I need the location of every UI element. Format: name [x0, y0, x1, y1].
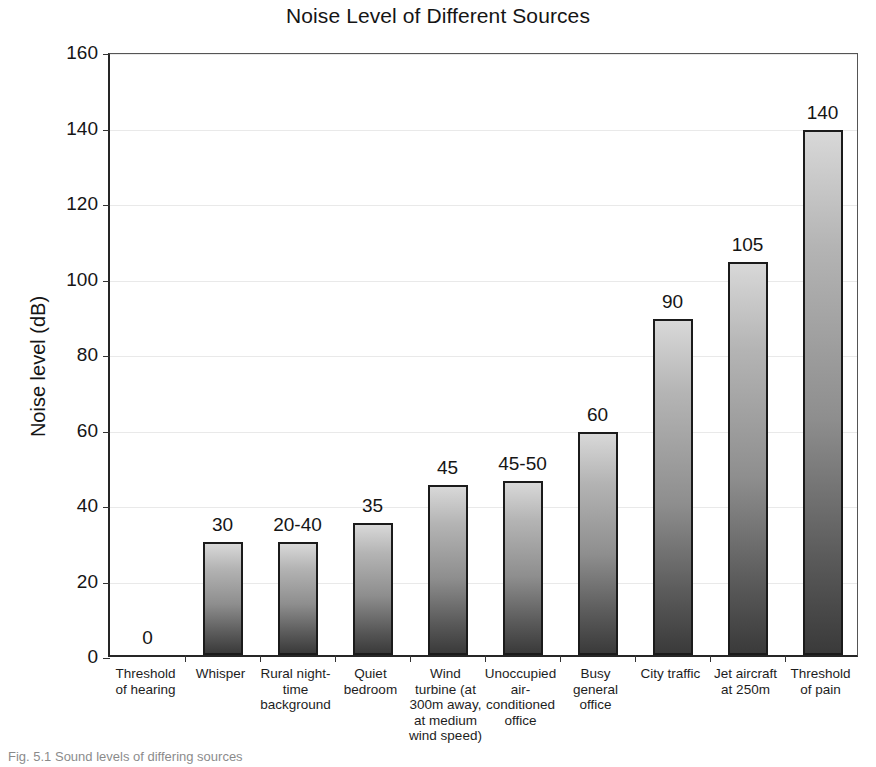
x-axis-category-line: Wind [408, 666, 483, 682]
y-tick-label: 140 [40, 118, 98, 140]
bar[interactable] [728, 262, 768, 655]
x-axis-category-label: Thresholdof pain [783, 666, 858, 697]
bar[interactable] [803, 130, 843, 655]
bar[interactable] [578, 432, 618, 655]
bar-value-label: 30 [212, 514, 233, 536]
x-axis-category-line: at medium [408, 713, 483, 729]
bar-value-label: 140 [807, 102, 839, 124]
x-axis-category-line: 300m away, [408, 697, 483, 713]
bar-value-label: 35 [362, 495, 383, 517]
bar-slot: 90 [635, 54, 710, 655]
x-axis-labels: Thresholdof hearingWhisperRural night-ti… [108, 666, 858, 761]
x-axis-category-label: Rural night-timebackground [258, 666, 333, 713]
x-axis-category-line: turbine (at [408, 682, 483, 698]
x-axis-category-label: Unoccupiedair-conditionedoffice [483, 666, 558, 728]
bar-value-label: 0 [142, 627, 153, 649]
x-axis-category-line: conditioned [483, 697, 558, 713]
bar[interactable] [353, 523, 393, 655]
x-tick-mark [560, 655, 561, 662]
x-tick-mark [335, 655, 336, 662]
bar-value-label: 20-40 [273, 514, 322, 536]
x-axis-category-line: of hearing [108, 682, 183, 698]
x-tick-mark [485, 655, 486, 662]
x-tick-mark [185, 655, 186, 662]
bar-value-label: 45-50 [498, 453, 547, 475]
y-tick-label: 40 [40, 495, 98, 517]
x-axis-category-line: at 250m [708, 682, 783, 698]
plot-area: 020406080100120140160 03020-40354545-506… [108, 53, 858, 657]
chart-figure: Noise Level of Different Sources Noise l… [0, 0, 876, 767]
x-tick-mark [410, 655, 411, 662]
bar-slot: 60 [560, 54, 635, 655]
x-axis-category-line: of pain [783, 682, 858, 698]
y-tick-label: 160 [40, 42, 98, 64]
x-axis-category-line: City traffic [633, 666, 708, 682]
y-tick-label: 0 [40, 646, 98, 668]
bar-slot: 35 [335, 54, 410, 655]
y-tick-mark [103, 658, 110, 659]
figure-caption: Fig. 5.1 Sound levels of differing sourc… [8, 749, 508, 767]
x-axis-category-line: air- [483, 682, 558, 698]
bar-value-label: 105 [732, 234, 764, 256]
bar[interactable] [653, 319, 693, 655]
x-axis-category-label: Whisper [183, 666, 258, 682]
bar-slot: 45-50 [485, 54, 560, 655]
bar-slot: 30 [185, 54, 260, 655]
y-tick-label: 100 [40, 269, 98, 291]
y-tick-label: 20 [40, 571, 98, 593]
x-axis-category-label: Windturbine (at300m away,at mediumwind s… [408, 666, 483, 744]
bar[interactable] [203, 542, 243, 655]
x-axis-category-label: Quietbedroom [333, 666, 408, 697]
x-tick-mark [710, 655, 711, 662]
x-axis-category-line: Quiet [333, 666, 408, 682]
y-tick-label: 120 [40, 193, 98, 215]
bar-value-label: 90 [662, 291, 683, 313]
x-axis-category-line: Jet aircraft [708, 666, 783, 682]
x-axis-category-line: general [558, 682, 633, 698]
y-tick-mark [103, 205, 110, 206]
bar[interactable] [278, 542, 318, 655]
x-axis-category-line: Threshold [783, 666, 858, 682]
bar-value-label: 60 [587, 404, 608, 426]
x-axis-category-label: Busygeneraloffice [558, 666, 633, 713]
bar-slot: 45 [410, 54, 485, 655]
y-tick-mark [103, 281, 110, 282]
bar-slot: 0 [110, 54, 185, 655]
x-axis-category-line: time [258, 682, 333, 698]
y-tick-mark [103, 130, 110, 131]
x-axis-category-line: Busy [558, 666, 633, 682]
y-tick-mark [103, 432, 110, 433]
x-axis-category-label: Jet aircraftat 250m [708, 666, 783, 697]
x-axis-category-line: Rural night- [258, 666, 333, 682]
y-tick-mark [103, 507, 110, 508]
bar-slot: 20-40 [260, 54, 335, 655]
y-tick-mark [103, 356, 110, 357]
x-axis-category-line: office [483, 713, 558, 729]
y-tick-label: 60 [40, 420, 98, 442]
x-axis-category-line: bedroom [333, 682, 408, 698]
x-axis-category-label: Thresholdof hearing [108, 666, 183, 697]
y-tick-mark [103, 54, 110, 55]
x-tick-mark [635, 655, 636, 662]
x-axis-category-line: Threshold [108, 666, 183, 682]
x-axis-category-label: City traffic [633, 666, 708, 682]
x-axis-category-line: wind speed) [408, 728, 483, 744]
x-axis-category-line: Unoccupied [483, 666, 558, 682]
x-tick-mark [260, 655, 261, 662]
y-tick-label: 80 [40, 344, 98, 366]
bar-slot: 140 [785, 54, 860, 655]
x-tick-mark [785, 655, 786, 662]
bar[interactable] [503, 481, 543, 655]
bars-group: 03020-40354545-506090105140 [110, 54, 857, 655]
chart-title: Noise Level of Different Sources [0, 4, 876, 28]
bar-slot: 105 [710, 54, 785, 655]
bar-value-label: 45 [437, 457, 458, 479]
y-tick-mark [103, 583, 110, 584]
x-axis-category-line: background [258, 697, 333, 713]
x-axis-category-line: office [558, 697, 633, 713]
x-axis-category-line: Whisper [183, 666, 258, 682]
bar[interactable] [428, 485, 468, 655]
